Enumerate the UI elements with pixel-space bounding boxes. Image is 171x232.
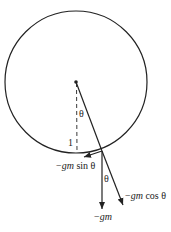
- tangential-force-label: −gm sin θ: [56, 160, 96, 171]
- gravity-label: −gm: [94, 211, 112, 222]
- vertical-reference-line: [77, 83, 78, 153]
- radial-force-label: −gm cos θ: [125, 190, 166, 201]
- one-label: 1: [68, 137, 73, 148]
- theta-bottom-label: θ: [104, 173, 109, 184]
- pendulum-diagram: θ 1 θ −gm sin θ −gm cos θ −gm: [0, 0, 171, 232]
- theta-top-label: θ: [79, 108, 84, 119]
